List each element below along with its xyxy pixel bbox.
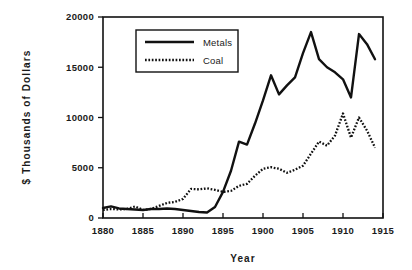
x-tick-label: 1885 [132,225,155,236]
y-axis-title: $ Thousands of Dollars [21,50,32,185]
x-tick-label: 1900 [252,225,274,236]
y-axis-tick-labels: 05000100001500020000 [66,11,94,223]
y-tick-label: 15000 [66,62,94,73]
series-line-coal [103,113,375,209]
x-tick-label: 1890 [172,225,194,236]
x-tick-label: 1905 [292,225,315,236]
y-tick-label: 10000 [66,112,94,123]
x-tick-label: 1910 [332,225,354,236]
x-tick-label: 1880 [92,225,114,236]
y-tick-label: 20000 [66,11,94,22]
legend-label-metals: Metals [203,37,232,48]
x-axis-title: Year [230,253,256,264]
y-tick-label: 0 [88,212,94,223]
x-tick-label: 1915 [372,225,395,236]
chart-figure: 05000100001500020000 1880188518901895190… [0,0,412,270]
legend-label-coal: Coal [203,55,223,66]
x-tick-label: 1895 [212,225,235,236]
y-tick-label: 5000 [72,162,94,173]
x-axis-tick-labels: 18801885189018951900190519101915 [92,225,395,236]
chart-legend: Metals Coal [136,30,238,72]
line-chart: 05000100001500020000 1880188518901895190… [0,0,412,270]
